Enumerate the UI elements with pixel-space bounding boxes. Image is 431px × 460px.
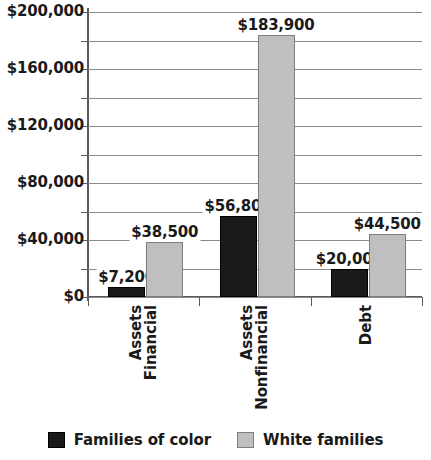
gridline (88, 183, 422, 184)
legend-item: White families (237, 431, 383, 449)
legend-label: White families (263, 431, 383, 449)
x-axis-label-debt: Debt (359, 305, 374, 405)
y-axis-label: $0 (0, 287, 84, 305)
x-axis-label-line: Assets (240, 305, 255, 360)
gridline (88, 12, 422, 13)
y-axis-label: $160,000 (0, 59, 84, 77)
y-axis-tick (81, 269, 88, 270)
bar-data-label: $183,900 (235, 16, 316, 34)
x-axis-label-line: Nonfinancial (255, 305, 270, 410)
bar-data-label: $38,500 (129, 223, 200, 241)
y-axis-tick (81, 212, 88, 213)
y-axis-label: $40,000 (0, 230, 84, 248)
legend-label: Families of color (74, 431, 211, 449)
category-separator-tick (199, 297, 200, 306)
chart-legend: Families of colorWhite families (0, 428, 431, 452)
category-separator-tick (422, 297, 423, 306)
y-axis-label: $200,000 (0, 2, 84, 20)
bar-chart: $7,200$38,500$56,800$183,900$20,000$44,5… (0, 0, 431, 460)
gridline (88, 69, 422, 70)
bar-white-families (369, 234, 406, 297)
legend-swatch-dark (48, 432, 65, 448)
bar-families-of-color (108, 287, 145, 297)
legend-swatch-light (237, 432, 254, 448)
bar-families-of-color (220, 216, 257, 297)
y-axis-label: $120,000 (0, 116, 84, 134)
y-axis-tick (81, 41, 88, 42)
y-axis-tick (81, 155, 88, 156)
x-axis-label-line: Assets (129, 305, 144, 360)
x-axis-label-nonfinancial-assets: NonfinancialAssets (240, 305, 270, 405)
category-separator-tick (88, 297, 89, 306)
bar-families-of-color (331, 269, 368, 298)
gridline (88, 41, 422, 42)
bar-white-families (146, 242, 183, 297)
gridline (88, 155, 422, 156)
legend-item: Families of color (48, 431, 211, 449)
bar-white-families (258, 35, 295, 297)
bar-data-label: $44,500 (352, 215, 423, 233)
x-axis-label-line: Debt (359, 305, 374, 345)
x-axis-label-line: Financial (144, 305, 159, 380)
x-axis-label-financial-assets: FinancialAssets (129, 305, 159, 405)
y-axis-label: $80,000 (0, 173, 84, 191)
y-axis-tick (81, 98, 88, 99)
gridline (88, 126, 422, 127)
gridline (88, 98, 422, 99)
plot-area: $7,200$38,500$56,800$183,900$20,000$44,5… (88, 12, 422, 297)
gridline (88, 297, 422, 298)
category-separator-tick (311, 297, 312, 306)
